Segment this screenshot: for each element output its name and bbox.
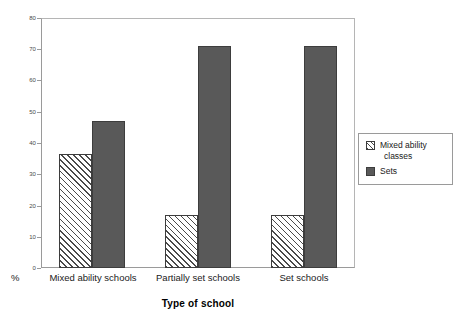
y-tick-10: 10 [0,232,41,242]
legend-swatch-solid-icon [366,167,375,176]
legend-label-line1: Sets [380,166,397,176]
y-tick-40: 40 [0,138,41,148]
bar-sets-1 [92,121,125,268]
y-tick-20: 20 [0,201,41,211]
bar-mixed-ability-classes-3 [271,215,304,268]
bar-sets-2 [198,46,231,268]
bar-sets-3 [304,46,337,268]
x-axis-labels: Mixed ability schools Partially set scho… [41,272,355,288]
legend-label-sets: Sets [380,166,454,177]
bar-chart: 80 70 60 50 40 30 20 10 0 % Mixed abilit… [0,0,459,324]
bar-group-set-schools [271,18,337,268]
bar-group-mixed-ability-schools [59,18,125,268]
legend-swatch-hatch-icon [366,141,375,150]
y-tick-50: 50 [0,107,41,117]
bars-layer [41,18,355,268]
x-label-set-schools: Set schools [239,272,369,283]
y-tick-60: 60 [0,75,41,85]
bar-mixed-ability-classes-1 [59,154,92,268]
legend-label-line1: Mixed ability [380,140,427,150]
percent-axis-label: % [11,272,19,283]
legend-label-line2: classes [384,151,454,162]
legend: Mixed abilityclasses Sets [358,133,453,185]
bar-group-partially-set-schools [165,18,231,268]
legend-label-mixed-ability-classes: Mixed abilityclasses [380,140,454,162]
y-tick-80: 80 [0,13,41,23]
legend-item-mixed-ability-classes: Mixed abilityclasses [366,140,454,162]
y-tick-30: 30 [0,169,41,179]
y-tick-70: 70 [0,44,41,54]
bar-mixed-ability-classes-2 [165,215,198,268]
legend-item-sets: Sets [366,166,454,177]
x-axis-title: Type of school [41,298,355,309]
